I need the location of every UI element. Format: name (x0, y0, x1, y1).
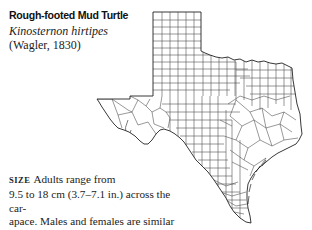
coastal-barrier-islands (248, 160, 266, 204)
size-description: SIZEAdults range from 9.5 to 18 cm (3.7–… (9, 173, 179, 230)
species-authority: (Wagler, 1830) (9, 38, 81, 53)
size-line-1: Adults range from (33, 173, 115, 185)
size-line-4: in size. (9, 229, 179, 230)
size-line-2: 9.5 to 18 cm (3.7–7.1 in.) across the ca… (9, 188, 179, 216)
size-label: SIZE (9, 175, 30, 185)
species-scientific-name: Kinosternon hirtipes (9, 24, 108, 39)
species-common-name: Rough-footed Mud Turtle (9, 9, 128, 21)
size-line-3: apace. Males and females are similar (9, 215, 179, 229)
